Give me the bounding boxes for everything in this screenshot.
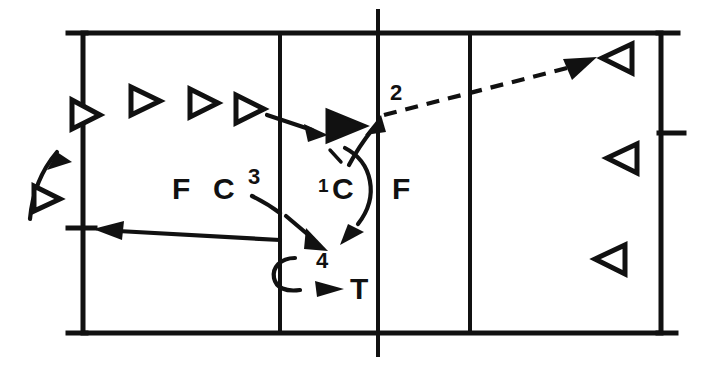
arrow-path-1-tail-dash: [330, 150, 341, 162]
arrow-path-2-head: [563, 57, 597, 80]
labels-group: F C 3 1 C F 2 4 T: [172, 80, 410, 305]
arrow-path-2-shaft: [384, 68, 567, 115]
player-opponent-1: [602, 44, 632, 73]
arrow-path-3: [252, 196, 328, 251]
arrow-pass-head: [304, 124, 328, 142]
arrow-spike-path-2: [384, 57, 597, 115]
arrow-long-left: [93, 221, 280, 240]
arrow-path-3-tail: [252, 196, 280, 213]
label-step-3: 3: [248, 164, 260, 189]
arrow-pass-to-attacker: [267, 115, 328, 142]
arrow-path-1-head: [340, 224, 364, 245]
label-C-mid: C: [332, 172, 354, 205]
volleyball-court-diagram: F C 3 1 C F 2 4 T: [0, 0, 713, 367]
player-back-row-1: [131, 87, 160, 115]
arrow-approach-head: [365, 115, 386, 135]
player-back-row-2: [190, 89, 218, 117]
player-attacker-filled: [327, 110, 366, 142]
court-svg: F C 3 1 C F 2 4 T: [0, 0, 713, 367]
label-F-right: F: [392, 172, 410, 205]
arrow-path-4-head: [315, 281, 344, 297]
arrow-path-4-curve: [274, 258, 300, 291]
court-inner-lines-group: [280, 11, 470, 355]
player-opponent-2: [607, 144, 637, 173]
label-step-2: 2: [390, 80, 402, 105]
label-F-left: F: [172, 172, 190, 205]
label-step-1: 1: [318, 175, 329, 196]
label-C-left: C: [213, 172, 235, 205]
player-on-sideline-left: [72, 100, 100, 129]
court-boundary-group: [68, 33, 678, 333]
arrow-long-left-shaft: [118, 231, 280, 240]
label-step-4: 4: [316, 248, 329, 273]
arrow-path-4-to-T: [274, 258, 344, 297]
player-back-row-3: [236, 95, 264, 123]
arrow-long-left-head: [93, 221, 124, 240]
player-receiver-outside-left: [34, 186, 60, 211]
players-group: [34, 44, 637, 274]
player-opponent-3: [595, 245, 625, 274]
label-T: T: [350, 272, 368, 305]
